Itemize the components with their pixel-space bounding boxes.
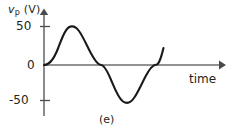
y-axis-label: vp (V) — [8, 4, 40, 17]
y-tick-label-minus-50: -50 — [9, 94, 29, 106]
y-axis-symbol: v — [8, 3, 15, 16]
waveform-figure: vp (V) 50 0 -50 time (e) — [0, 0, 232, 134]
figure-caption: (e) — [99, 114, 114, 125]
y-axis-arrowhead — [40, 9, 48, 16]
y-axis-unit: (V) — [24, 3, 41, 16]
x-axis-arrowhead — [219, 61, 226, 70]
y-tick-label-50: 50 — [16, 20, 31, 32]
x-axis-label: time — [189, 73, 216, 85]
waveform-plot — [0, 0, 232, 134]
y-axis-subscript: p — [15, 8, 20, 17]
y-tick-label-0: 0 — [27, 59, 35, 71]
